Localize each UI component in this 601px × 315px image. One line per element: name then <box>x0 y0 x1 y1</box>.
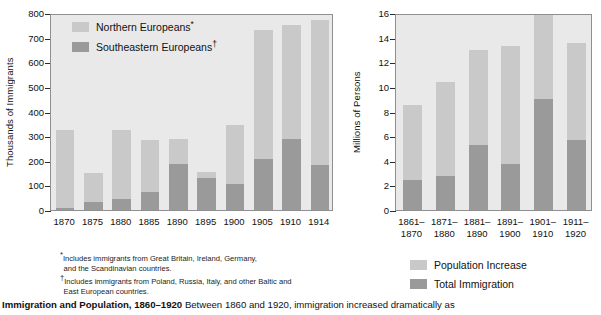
bar-segment-dark <box>403 180 422 210</box>
y-tick-label: 0 <box>361 205 389 216</box>
bar-segment-dark <box>84 202 103 210</box>
bar-1895 <box>197 172 216 210</box>
figure-root: Thousands of Immigrants 0100200300400500… <box>0 0 601 315</box>
bar-segment-dark <box>56 208 75 210</box>
legend-footnote-marker-northern: * <box>191 19 194 29</box>
x-tick-label-line: 1891– <box>497 216 523 227</box>
chart-population-immigration: Millions of Persons 0246810121416 1861–1… <box>345 0 601 250</box>
footnote-1-line-1: Includes immigrants from Great Britain, … <box>63 254 257 263</box>
bar-segment-light <box>567 43 586 140</box>
footnote-2-line-1: Includes immigrants from Poland, Russia,… <box>64 277 291 286</box>
footnote-2-line-2: East European countries. <box>60 287 292 297</box>
y-tick-label: 400 <box>16 107 44 118</box>
footnote-1-line-2: and the Scandinavian countries. <box>60 264 257 274</box>
footnote-southeastern-europeans: †Includes immigrants from Poland, Russia… <box>60 277 292 296</box>
y-tick-label: 800 <box>16 8 44 19</box>
bar-segment-light <box>403 105 422 180</box>
bar-1870 <box>56 130 75 210</box>
bar-1891–1900 <box>501 46 520 210</box>
bar-segment-dark <box>141 192 160 210</box>
right-chart-plot-area <box>395 14 592 211</box>
bar-1861–1870 <box>403 105 422 210</box>
bar-1901–1910 <box>534 15 553 210</box>
legend-label-population-increase: Population Increase <box>434 259 527 271</box>
figure-caption: Immigration and Population, 1860–1920 Be… <box>2 299 455 311</box>
bar-segment-dark <box>282 139 301 210</box>
bar-1880 <box>112 130 131 210</box>
bar-1881–1890 <box>469 50 488 210</box>
x-tick-label-line: 1861– <box>398 216 424 227</box>
bar-1875 <box>84 173 103 210</box>
bar-segment-dark <box>112 199 131 210</box>
bar-segment-light <box>282 25 301 139</box>
bar-segment-light <box>226 125 245 184</box>
legend-label-northern-europeans: Northern Europeans* <box>96 21 194 33</box>
bar-segment-light <box>436 82 455 176</box>
bar-segment-light <box>84 173 103 202</box>
bar-segment-light <box>254 30 273 159</box>
legend-label-total-immigration: Total Immigration <box>434 278 514 290</box>
figure-caption-title: Immigration and Population, 1860–1920 <box>2 299 182 310</box>
bar-1911–1920 <box>567 43 586 210</box>
chart-immigrant-origins: Thousands of Immigrants 0100200300400500… <box>0 0 340 250</box>
bar-1885 <box>141 140 160 210</box>
bar-1871–1880 <box>436 82 455 210</box>
bar-1900 <box>226 125 245 210</box>
x-tick-label: 1914 <box>301 216 337 228</box>
bar-segment-dark <box>469 145 488 210</box>
bar-segment-dark <box>254 159 273 210</box>
x-tick-label-line: 1911– <box>563 216 589 227</box>
y-tick-label: 0 <box>16 205 44 216</box>
y-tick-label: 700 <box>16 33 44 44</box>
bar-1914 <box>311 20 330 210</box>
bar-segment-light <box>141 140 160 192</box>
bar-segment-light <box>311 20 330 165</box>
left-chart-legend-item-southeastern: Southeastern Europeans† <box>72 41 217 53</box>
legend-label-southeastern-europeans-text: Southeastern Europeans <box>96 41 212 53</box>
bar-segment-dark <box>567 140 586 210</box>
legend-footnote-marker-southeastern: † <box>212 39 217 49</box>
x-tick-label-line: 1920 <box>555 228 596 240</box>
y-tick-label: 12 <box>361 57 389 68</box>
bar-segment-dark <box>197 178 216 210</box>
bar-segment-dark <box>169 164 188 210</box>
x-tick-label-line: 1881– <box>464 216 490 227</box>
y-tick-label: 16 <box>361 8 389 19</box>
y-tick-label: 500 <box>16 82 44 93</box>
y-tick-label: 2 <box>361 180 389 191</box>
bar-segment-dark <box>534 99 553 210</box>
legend-label-northern-europeans-text: Northern Europeans <box>96 21 191 33</box>
bar-1905 <box>254 30 273 210</box>
legend-swatch-northern-europeans <box>72 22 89 32</box>
legend-swatch-population-increase <box>410 260 427 270</box>
y-tick-label: 10 <box>361 82 389 93</box>
y-tick-label: 100 <box>16 180 44 191</box>
bar-segment-light <box>112 130 131 199</box>
figure-caption-text: Between 1860 and 1920, immigration incre… <box>185 299 455 310</box>
x-tick-label-line: 1901– <box>530 216 556 227</box>
footnote-northern-europeans: *Includes immigrants from Great Britain,… <box>60 254 257 273</box>
legend-swatch-total-immigration <box>410 279 427 289</box>
right-chart-legend-item-population-increase: Population Increase <box>410 259 527 271</box>
y-tick-label: 4 <box>361 156 389 167</box>
left-chart-legend-item-northern: Northern Europeans* <box>72 21 194 33</box>
bar-segment-dark <box>311 165 330 210</box>
bar-1910 <box>282 25 301 210</box>
legend-label-southeastern-europeans: Southeastern Europeans† <box>96 41 217 53</box>
x-tick-label: 1911–1920 <box>555 216 596 239</box>
bar-segment-light <box>501 46 520 164</box>
y-tick-label: 6 <box>361 131 389 142</box>
y-tick-mark <box>390 211 396 212</box>
y-tick-label: 8 <box>361 107 389 118</box>
bar-segment-light <box>169 139 188 164</box>
left-chart-y-axis-label: Thousands of Immigrants <box>4 14 15 211</box>
bar-segment-light <box>469 50 488 145</box>
y-tick-label: 14 <box>361 33 389 44</box>
x-tick-label-line: 1871– <box>431 216 457 227</box>
y-tick-label: 200 <box>16 156 44 167</box>
bar-segment-light <box>534 15 553 99</box>
bar-segment-dark <box>436 176 455 210</box>
y-tick-mark <box>45 211 51 212</box>
bar-segment-dark <box>501 164 520 210</box>
bar-segment-light <box>56 130 75 208</box>
